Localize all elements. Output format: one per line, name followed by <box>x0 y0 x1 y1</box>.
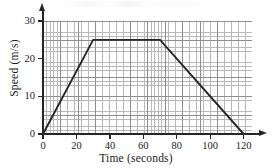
speed-time-graph: 0102030 020406080100120 Time (seconds) S… <box>0 0 272 168</box>
y-axis-title: Speed (m/s) <box>8 13 20 123</box>
speed-line <box>43 40 244 134</box>
x-axis-title: Time (seconds) <box>0 152 272 164</box>
series-layer <box>0 0 272 168</box>
